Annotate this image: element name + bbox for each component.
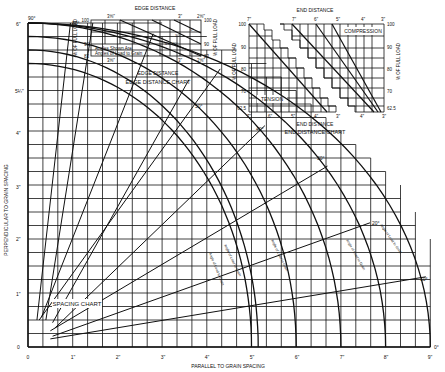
y-tick-5: 5¼" xyxy=(15,88,24,94)
angle-30: 30° xyxy=(317,155,325,161)
edge-line-0: 0° xyxy=(190,27,194,32)
end-y-70-right: 70 xyxy=(387,89,393,94)
angle-40: 40° xyxy=(256,126,264,132)
edge-x-bot-0: 3⅝" xyxy=(107,58,115,63)
edge-x-top-1: 3" xyxy=(178,14,183,19)
end-xb-5: 5" xyxy=(291,114,296,119)
x-tick-9: 9" xyxy=(428,354,433,360)
end-xt-3c: 3" xyxy=(381,17,386,22)
angle-50: 50° xyxy=(195,103,203,109)
edge-x-bot-1: 3" xyxy=(178,58,183,63)
angle-90: 90° xyxy=(28,15,36,21)
end-xt-7: 7" xyxy=(247,17,252,22)
end-xt-6c: 6" xyxy=(314,17,319,22)
y-axis-label: PERPENDICULAR TO GRAIN SPACING xyxy=(3,164,9,256)
edge-top-label: EDGE DISTANCE xyxy=(135,5,176,11)
y-tick-1: 1" xyxy=(16,291,21,297)
angle-0: 0° xyxy=(434,344,439,350)
x-tick-2: 2" xyxy=(116,354,121,360)
end-y-100: 100 xyxy=(238,22,246,27)
end-xt-5c: 5" xyxy=(336,17,341,22)
x-tick-7: 7" xyxy=(340,354,345,360)
end-distance-chart: END DISTANCE xyxy=(232,7,401,135)
end-top-label: END DISTANCE xyxy=(297,7,335,13)
angle-20: 20° xyxy=(372,220,380,226)
spacing-chart-title: SPACING CHART xyxy=(53,301,102,307)
x-tick-6: 6" xyxy=(295,354,300,360)
end-xb-4: 4" xyxy=(314,114,319,119)
end-ylabel-right: % OF FULL LOAD xyxy=(396,42,401,80)
curve-label-90: Angle of Load to Grain xyxy=(208,252,225,286)
angle-10: 10° xyxy=(420,276,428,282)
end-xt-7c: 7" xyxy=(292,17,297,22)
edge-y-83: 83 xyxy=(84,54,90,59)
edge-y-90-right: 90 xyxy=(204,42,210,47)
x-tick-1: 1" xyxy=(71,354,76,360)
end-xb-6: 6" xyxy=(268,114,273,119)
x-tick-4: 4" xyxy=(205,354,210,360)
x-axis-label: PARALLEL TO GRAIN SPACING xyxy=(191,363,265,369)
end-y-80-right: 80 xyxy=(387,67,393,72)
end-y-90: 90 xyxy=(241,45,247,50)
y-tick-6: 6" xyxy=(16,21,21,27)
angle-80: 80° xyxy=(72,20,80,26)
edge-y-100-right: 100 xyxy=(204,18,212,23)
edge-y-100: 100 xyxy=(81,18,89,23)
end-xb-3: 3" xyxy=(336,114,341,119)
x-tick-5: 5" xyxy=(250,354,255,360)
edge-x-top-0: 3⅝" xyxy=(107,14,115,19)
x-tick-8: 8" xyxy=(384,354,389,360)
end-xb-3c: 3" xyxy=(382,114,387,119)
end-xt-4c: 4" xyxy=(361,17,366,22)
edge-line-30: 30° xyxy=(175,33,181,38)
end-y-90-right: 90 xyxy=(387,45,393,50)
x-tick-0: 0 xyxy=(27,354,30,360)
spacing-grid xyxy=(28,23,430,347)
y-tick-2: 2" xyxy=(16,236,21,242)
y-tick-4: 4" xyxy=(16,130,21,136)
end-y-62-5-right: 62.5 xyxy=(387,106,396,111)
chart-canvas: EDGE DISTANCE Angles Shown Are Angles of… xyxy=(0,0,445,372)
end-y-100-right: 100 xyxy=(387,22,395,27)
edge-distance-chart: EDGE DISTANCE Angles Shown Are Angles of… xyxy=(73,5,218,85)
compression-label: COMPRESSION xyxy=(344,28,382,34)
y-tick-3: 3" xyxy=(16,184,21,190)
y-tick-0: 0 xyxy=(17,344,20,350)
end-xb-4c: 4" xyxy=(360,114,365,119)
curve-label-45: Angle of Load to Grain xyxy=(270,239,289,272)
end-bottom-label: END DISTANCE xyxy=(297,121,335,127)
x-tick-3: 3" xyxy=(161,354,166,360)
tension-label: TENSION xyxy=(261,96,284,102)
end-y-80: 80 xyxy=(241,67,247,72)
